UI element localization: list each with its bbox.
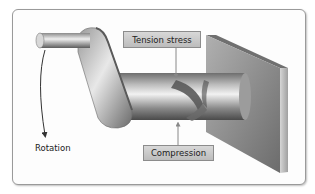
crank-handle — [36, 33, 90, 48]
rotation-label: Rotation — [35, 143, 71, 153]
torsion-illustration — [0, 0, 315, 194]
compression-label: Compression — [143, 145, 214, 161]
rotation-arrow — [41, 50, 46, 135]
tension-stress-label: Tension stress — [123, 31, 201, 48]
shaft — [115, 73, 251, 120]
